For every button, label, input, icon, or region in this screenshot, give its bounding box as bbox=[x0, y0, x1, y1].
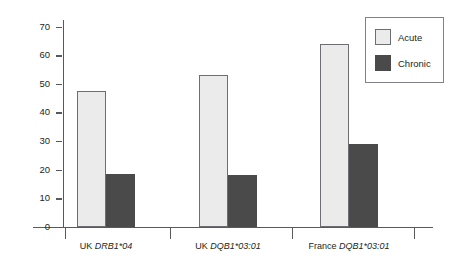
chart-legend: Acute Chronic bbox=[365, 17, 444, 83]
category-allele: DQB1*03:01 bbox=[210, 241, 261, 251]
y-tick-label: 30 bbox=[24, 136, 50, 146]
bar-acute-1 bbox=[77, 91, 106, 227]
y-tick-mark bbox=[56, 170, 62, 171]
x-axis-line bbox=[33, 227, 433, 228]
y-tick-label: 60 bbox=[24, 50, 50, 60]
x-category-label-1: UK DRB1*04 bbox=[46, 241, 166, 251]
y-tick-mark bbox=[56, 27, 62, 28]
group-separator-tick bbox=[170, 228, 171, 239]
y-tick-mark bbox=[56, 198, 62, 199]
y-tick-mark bbox=[56, 227, 62, 228]
bar-acute-2 bbox=[199, 75, 228, 227]
y-tick-label: 70 bbox=[24, 22, 50, 32]
group-separator-tick bbox=[65, 228, 66, 239]
y-tick-label: 50 bbox=[24, 79, 50, 89]
y-tick-mark bbox=[56, 141, 62, 142]
y-tick-mark bbox=[56, 55, 62, 56]
group-separator-tick bbox=[414, 228, 415, 239]
legend-label-chronic: Chronic bbox=[398, 58, 431, 69]
bar-chronic-1 bbox=[106, 174, 135, 227]
y-tick-label: 10 bbox=[24, 193, 50, 203]
x-category-label-2: UK DQB1*03:01 bbox=[168, 241, 288, 251]
legend-swatch-chronic-icon bbox=[375, 55, 391, 71]
bar-chronic-3 bbox=[349, 144, 378, 227]
y-tick-mark bbox=[56, 84, 62, 85]
y-tick-mark bbox=[56, 112, 62, 113]
category-allele: DQB1*03:01 bbox=[339, 241, 390, 251]
category-prefix: UK bbox=[80, 241, 95, 251]
category-allele: DRB1*04 bbox=[95, 241, 133, 251]
category-prefix: UK bbox=[195, 241, 210, 251]
category-prefix: France bbox=[308, 241, 339, 251]
bar-chart: Frequency 010203040506070 UK DRB1*04UK D… bbox=[0, 0, 453, 269]
bar-acute-3 bbox=[320, 44, 349, 227]
x-category-label-3: France DQB1*03:01 bbox=[289, 241, 409, 251]
y-tick-label: 0 bbox=[24, 222, 50, 232]
y-tick-label: 20 bbox=[24, 165, 50, 175]
y-tick-label: 40 bbox=[24, 107, 50, 117]
bar-chronic-2 bbox=[228, 175, 257, 227]
legend-item-acute: Acute bbox=[375, 29, 422, 45]
legend-label-acute: Acute bbox=[398, 32, 422, 43]
legend-item-chronic: Chronic bbox=[375, 55, 431, 71]
legend-swatch-acute-icon bbox=[375, 29, 391, 45]
group-separator-tick bbox=[292, 228, 293, 239]
